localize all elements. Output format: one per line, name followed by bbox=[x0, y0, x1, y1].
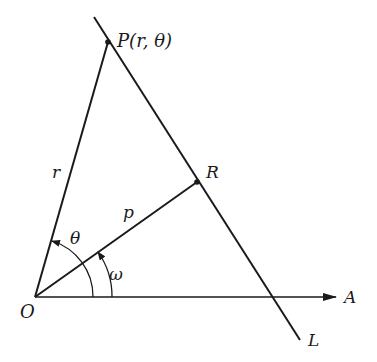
diagram-canvas: P(r, θ) R O A L r p θ ω bbox=[0, 0, 377, 362]
segment-op bbox=[35, 42, 108, 297]
label-r-length: r bbox=[52, 162, 61, 182]
label-omega: ω bbox=[109, 264, 123, 284]
label-r-point: R bbox=[205, 162, 219, 182]
label-o-origin: O bbox=[20, 301, 35, 322]
polar-line-diagram: P(r, θ) R O A L r p θ ω bbox=[0, 0, 377, 362]
label-a-axis: A bbox=[342, 287, 356, 307]
label-l-line: L bbox=[307, 330, 319, 350]
label-p-point: P(r, θ) bbox=[116, 30, 172, 51]
point-p bbox=[105, 39, 111, 45]
label-p-length: p bbox=[123, 202, 134, 222]
point-r bbox=[194, 179, 200, 185]
line-l bbox=[94, 17, 300, 340]
label-theta: θ bbox=[70, 228, 80, 248]
angle-theta-arc bbox=[52, 241, 93, 297]
